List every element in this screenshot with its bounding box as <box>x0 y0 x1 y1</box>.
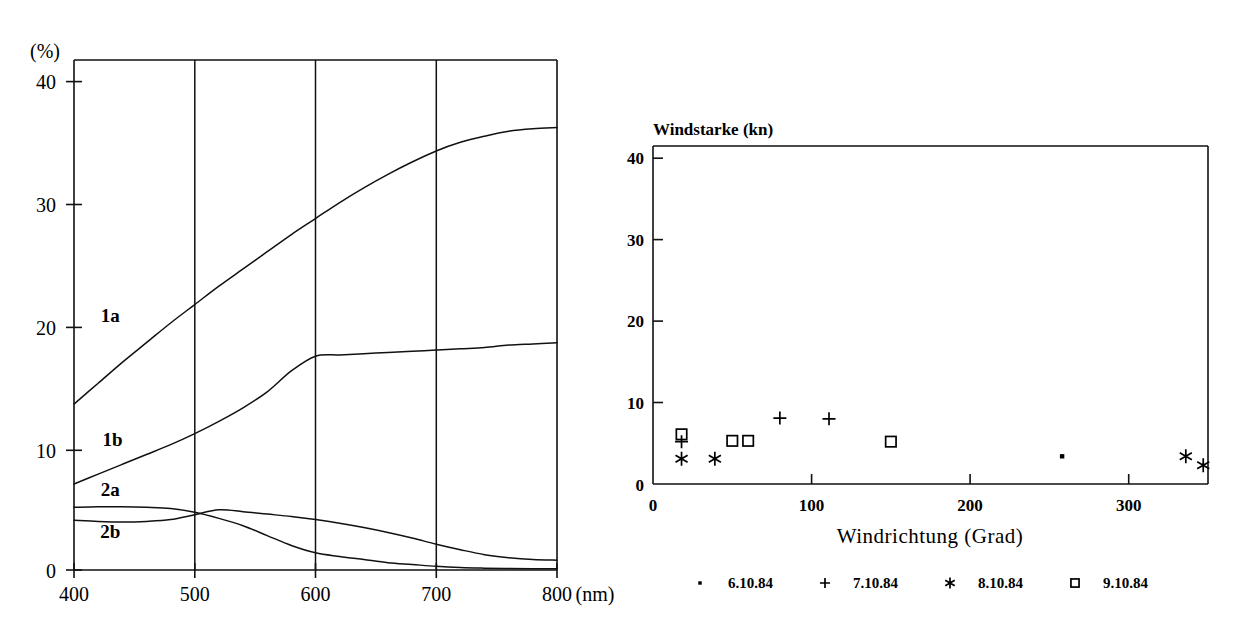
spectral-transmission-svg: (%) 40 30 20 10 0 400 500 600 700 800 (n… <box>0 0 660 639</box>
y-unit-label: (%) <box>30 40 60 63</box>
spectral-transmission-panel: (%) 40 30 20 10 0 400 500 600 700 800 (n… <box>0 0 660 639</box>
curve-label-2a: 2a <box>101 479 121 500</box>
ytick-label-10: 10 <box>36 440 56 462</box>
ytick-label-0: 0 <box>636 476 645 495</box>
xtick-label-800: 800 <box>542 583 572 605</box>
curve-label-1b: 1b <box>103 429 123 450</box>
legend-label-0: 6.10.84 <box>728 575 774 591</box>
xtick-label-400: 400 <box>59 583 89 605</box>
legend-label-2: 8.10.84 <box>978 575 1024 591</box>
marker-plus-icon <box>823 412 836 425</box>
ytick-label-40: 40 <box>36 71 56 93</box>
right-x-ticks <box>812 474 1129 484</box>
ytick-label-20: 20 <box>627 312 644 331</box>
wind-scatter-svg: Windstarke (kn) 40 30 20 10 0 0 100 200 … <box>600 0 1252 639</box>
xtick-label-100: 100 <box>799 496 825 515</box>
ytick-label-30: 30 <box>36 194 56 216</box>
legend-label-3: 9.10.84 <box>1103 575 1149 591</box>
marker-asterisk-icon <box>945 578 954 589</box>
marker-dot-icon <box>698 581 701 584</box>
curve-label-2b: 2b <box>100 521 120 542</box>
ytick-label-40: 40 <box>627 149 644 168</box>
marker-square-icon <box>886 436 896 446</box>
figure-root: (%) 40 30 20 10 0 400 500 600 700 800 (n… <box>0 0 1252 639</box>
marker-square-icon <box>743 436 753 446</box>
legend-marker-asterisk-icon <box>945 578 954 589</box>
legend-marker-plus-icon <box>820 578 830 588</box>
right-y-ticks <box>653 158 663 402</box>
marker-asterisk-icon <box>675 452 687 466</box>
xtick-label-200: 200 <box>957 496 983 515</box>
marker-plus-icon <box>773 412 786 425</box>
chart-legend: 6.10.84 7.10.84 8.10.84 9.10.84 <box>698 575 1148 591</box>
right-plot-frame <box>653 146 1208 484</box>
plot-title: Windstarke (kn) <box>653 120 773 139</box>
wind-scatter-panel: Windstarke (kn) 40 30 20 10 0 0 100 200 … <box>600 0 1252 639</box>
marker-plus-icon <box>820 578 830 588</box>
scatter-markers-group <box>675 412 1209 473</box>
ytick-label-10: 10 <box>627 394 644 413</box>
ytick-label-0: 0 <box>46 560 56 582</box>
marker-asterisk-icon <box>1180 449 1192 463</box>
marker-dot-icon <box>1060 454 1064 458</box>
xtick-label-500: 500 <box>180 583 210 605</box>
marker-asterisk-icon <box>709 452 721 466</box>
legend-marker-dot-icon <box>698 581 701 584</box>
xtick-label-600: 600 <box>301 583 331 605</box>
xtick-label-0: 0 <box>649 496 658 515</box>
ytick-label-20: 20 <box>36 317 56 339</box>
marker-square-icon <box>1071 579 1079 587</box>
left-gridlines <box>195 60 436 570</box>
legend-label-1: 7.10.84 <box>853 575 899 591</box>
legend-marker-square-icon <box>1071 579 1079 587</box>
xtick-label-300: 300 <box>1116 496 1142 515</box>
ytick-label-30: 30 <box>627 231 644 250</box>
marker-square-icon <box>727 436 737 446</box>
xtick-label-700: 700 <box>421 583 451 605</box>
x-axis-title: Windrichtung (Grad) <box>837 524 1024 548</box>
curve-label-1a: 1a <box>101 305 121 326</box>
